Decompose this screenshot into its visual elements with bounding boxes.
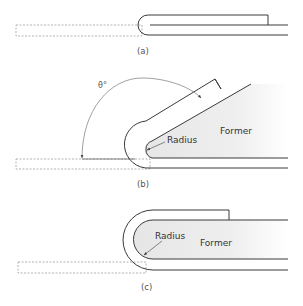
angle-label: θ° [98,82,107,90]
original-sheet-outline [16,25,142,36]
former-label-c: Former [200,239,232,248]
panel-a [16,15,288,36]
panel-c [18,210,288,273]
caption-a: (a) [137,47,149,56]
caption-c: (c) [141,283,152,292]
panel-b [16,78,288,169]
caption-b: (b) [137,180,149,189]
bending-diagram: (a) θ° Radius Former (b) Radius Former (… [0,0,303,306]
radius-label-b: Radius [167,136,197,145]
former-shape [145,84,288,158]
diagram-canvas [0,0,303,306]
original-sheet-outline [18,262,146,273]
original-sheet-outline [16,159,150,169]
plate-end [215,79,221,89]
former-label-b: Former [220,127,252,136]
radius-label-c: Radius [155,232,185,241]
